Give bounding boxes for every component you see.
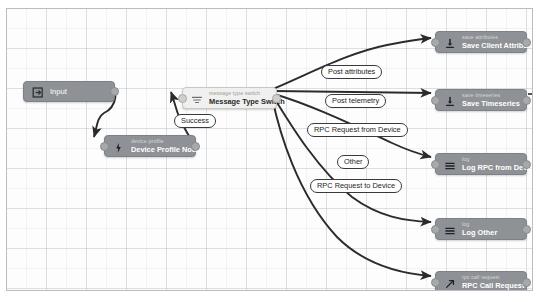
edge-label-rpc-request-from-device[interactable]: RPC Request from Device [307, 123, 408, 137]
node-type: save timeseries [462, 93, 520, 98]
node-input-port[interactable] [431, 96, 440, 105]
node-output-port[interactable] [110, 87, 119, 96]
node-label: Save Timeseries [462, 100, 520, 107]
node-output-port[interactable] [522, 278, 531, 287]
flow-canvas[interactable]: Input device profile Device Profile Node [6, 8, 533, 291]
node-device-profile-node[interactable]: device profile Device Profile Node [104, 135, 196, 157]
edge-label-other[interactable]: Other [337, 155, 369, 169]
node-output-port[interactable] [522, 160, 531, 169]
node-input-port[interactable] [431, 278, 440, 287]
edge-label-post-telemetry[interactable]: Post telemetry [325, 94, 386, 108]
edge-label-post-attributes[interactable]: Post attributes [321, 65, 382, 79]
node-type: device profile [131, 139, 200, 144]
node-output-port[interactable] [522, 38, 531, 47]
node-type: rpc call request [462, 275, 524, 280]
edge-label-success[interactable]: Success [174, 114, 216, 128]
device-profile-icon [113, 140, 126, 153]
node-rpc-call-request[interactable]: rpc call request RPC Call Request [435, 271, 527, 291]
node-input-port[interactable] [100, 142, 109, 151]
screenshot-root: Input device profile Device Profile Node [0, 0, 537, 302]
node-output-port[interactable] [272, 94, 281, 103]
edge-switch-to-save-timeseries [274, 91, 431, 93]
edge-label-rpc-request-to-device[interactable]: RPC Request to Device [310, 179, 402, 193]
node-input[interactable]: Input [23, 81, 115, 102]
node-input-port[interactable] [431, 225, 440, 234]
login-arrow-icon [32, 85, 45, 98]
log-lines-icon [444, 223, 457, 236]
node-log-rpc-from-device[interactable]: log Log RPC from Device [435, 153, 527, 175]
node-input-port[interactable] [178, 94, 187, 103]
node-output-port[interactable] [522, 225, 531, 234]
node-message-type-switch[interactable]: message type switch Message Type Switch [182, 87, 277, 109]
rpc-arrow-icon [444, 276, 457, 289]
node-input-port[interactable] [431, 160, 440, 169]
node-input-port[interactable] [431, 38, 440, 47]
footer-strip [0, 291, 537, 302]
node-save-timeseries[interactable]: save timeseries Save Timeseries [435, 89, 527, 111]
log-lines-icon [444, 158, 457, 171]
save-download-icon [444, 94, 457, 107]
node-output-port[interactable] [191, 142, 200, 151]
node-log-other[interactable]: log Log Other [435, 218, 527, 240]
node-label: Device Profile Node [131, 146, 200, 153]
node-label: Log Other [462, 229, 497, 236]
save-download-icon [444, 36, 457, 49]
node-type: log [462, 222, 497, 227]
node-label: RPC Call Request [462, 282, 524, 289]
edge-switch-to-save-attributes [273, 38, 431, 89]
filter-switch-icon [191, 92, 204, 105]
node-save-client-attributes[interactable]: save attributes Save Client Attributes [435, 31, 527, 53]
node-label: Input [50, 88, 67, 96]
node-output-port[interactable] [522, 96, 531, 105]
